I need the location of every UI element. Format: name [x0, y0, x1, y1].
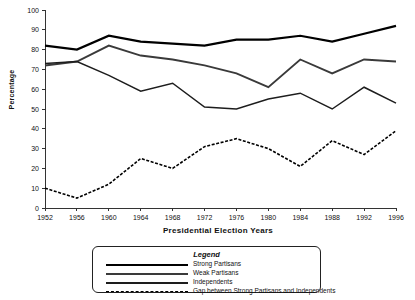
y-tick-label: 70	[31, 66, 39, 73]
x-tick-label: 1956	[69, 214, 85, 221]
x-tick-label: 1972	[197, 214, 213, 221]
chart-page: Percentage Presidential Election Years 0…	[0, 0, 415, 300]
y-tick-label: 10	[31, 185, 39, 192]
x-tick-label: 1976	[229, 214, 245, 221]
legend-item: Independents	[93, 278, 320, 286]
legend-item-label: Independents	[193, 278, 232, 286]
y-tick-label: 100	[27, 7, 39, 14]
legend-swatch-icon	[106, 288, 188, 294]
legend-swatch-icon	[106, 279, 188, 285]
x-tick-label: 1980	[261, 214, 277, 221]
legend-item: Strong Partisans	[93, 260, 320, 268]
x-tick-label: 1984	[292, 214, 308, 221]
series-line-1	[45, 46, 396, 88]
legend-swatch-icon	[106, 270, 188, 276]
legend-title: Legend	[93, 250, 320, 259]
legend: Legend Strong PartisansWeak PartisansInd…	[92, 246, 321, 293]
data-series-group	[45, 26, 396, 198]
x-tick-label: 1996	[388, 214, 404, 221]
y-tick-label: 50	[31, 106, 39, 113]
chart-figure: Percentage Presidential Election Years 0…	[0, 0, 415, 238]
series-line-0	[45, 26, 396, 50]
legend-item-label: Gap between Strong Partisans and Indepen…	[193, 287, 335, 295]
x-tick-label: 1988	[324, 214, 340, 221]
legend-swatch-icon	[106, 261, 188, 267]
x-tick-label: 1992	[356, 214, 372, 221]
y-tick-label: 80	[31, 46, 39, 53]
y-tick-label: 0	[35, 205, 39, 212]
y-axis-ticks: 0102030405060708090100	[27, 7, 45, 212]
x-tick-label: 1964	[133, 214, 149, 221]
y-tick-label: 60	[31, 86, 39, 93]
x-axis-ticks: 1952195619601964196819721976198019841988…	[37, 208, 404, 221]
legend-item: Gap between Strong Partisans and Indepen…	[93, 287, 320, 295]
y-tick-label: 30	[31, 145, 39, 152]
y-tick-label: 90	[31, 26, 39, 33]
y-tick-label: 40	[31, 125, 39, 132]
legend-item-label: Strong Partisans	[193, 260, 241, 268]
y-tick-label: 20	[31, 165, 39, 172]
plot-canvas: 0102030405060708090100 19521956196019641…	[0, 0, 415, 238]
x-tick-label: 1952	[37, 214, 53, 221]
x-tick-label: 1968	[165, 214, 181, 221]
legend-item: Weak Partisans	[93, 269, 320, 277]
legend-item-label: Weak Partisans	[193, 269, 238, 277]
x-tick-label: 1960	[101, 214, 117, 221]
series-line-3	[45, 131, 396, 198]
legend-rows: Strong PartisansWeak PartisansIndependen…	[93, 260, 320, 295]
